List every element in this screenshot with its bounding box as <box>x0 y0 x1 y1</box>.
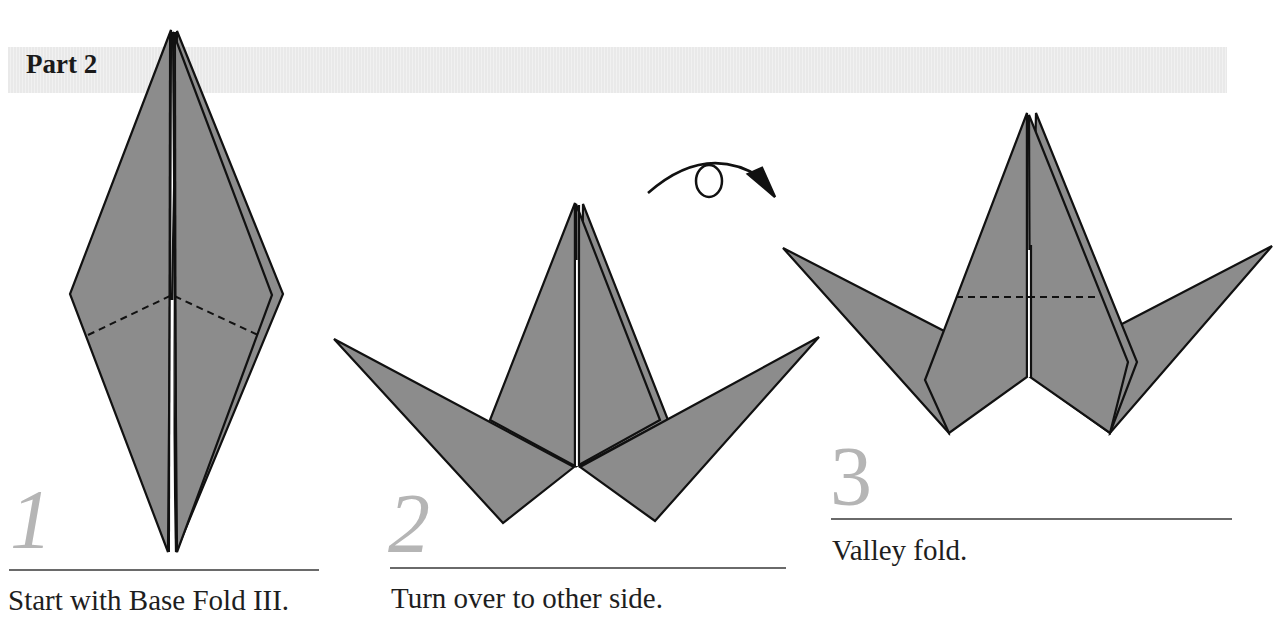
step-3-divider <box>831 518 1232 520</box>
step-2-divider <box>390 567 786 569</box>
step-1-figure <box>70 30 283 552</box>
turn-over-arrow-icon <box>648 163 775 197</box>
step-1-caption: Start with Base Fold III. <box>8 584 289 617</box>
step-number-2: 2 <box>388 482 430 566</box>
section-title: Part 2 <box>26 49 97 80</box>
step-2-figure <box>334 203 819 523</box>
step-number-1: 1 <box>10 478 52 562</box>
step-1-divider <box>9 569 319 571</box>
step-2-caption: Turn over to other side. <box>391 582 663 615</box>
diagram-figures <box>0 0 1287 621</box>
step-3-figure <box>783 113 1272 433</box>
step-3-caption: Valley fold. <box>832 534 967 567</box>
step-number-3: 3 <box>830 435 872 519</box>
